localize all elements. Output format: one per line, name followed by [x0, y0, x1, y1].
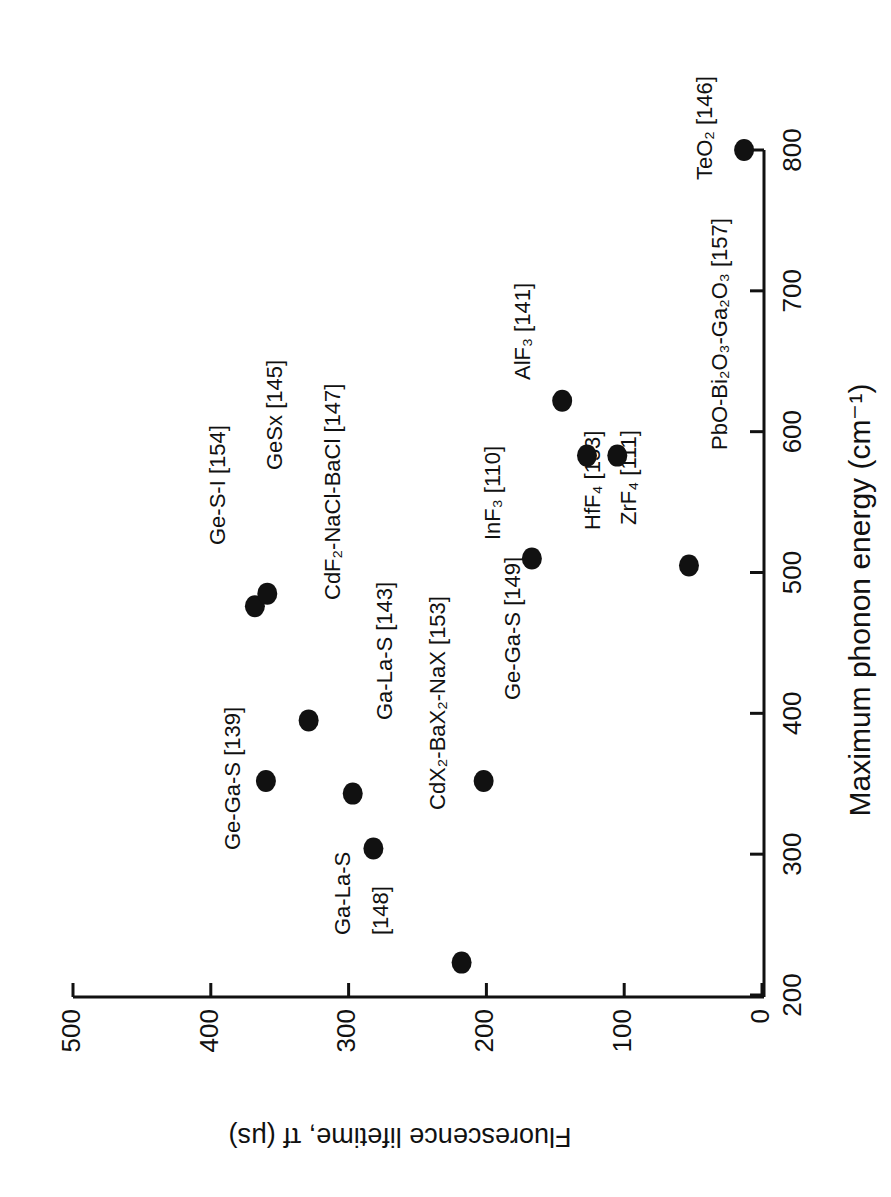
- point-label: ZrF₄ [111]: [616, 430, 641, 525]
- point-label: Ge-S-I [154]: [205, 425, 230, 545]
- y-tick-label: 500: [56, 1009, 86, 1052]
- y-tick-label: 400: [194, 1009, 224, 1052]
- point-label: Ge-Ga-S [149]: [500, 557, 525, 700]
- data-point: [552, 390, 572, 412]
- data-point: [257, 583, 277, 605]
- x-tick-label: 200: [777, 973, 807, 1016]
- x-tick-label: 700: [777, 269, 807, 312]
- point-label: Ge-Ga-S [139]: [220, 707, 245, 850]
- data-point: [734, 139, 754, 161]
- point-label: CdX₂-BaX₂-NaX [153]: [425, 596, 450, 810]
- point-label: Ga-La-S [143]: [372, 582, 397, 720]
- data-point: [256, 770, 276, 792]
- point-label: Ga-La-S: [330, 852, 355, 935]
- data-point: [679, 554, 699, 576]
- data-point: [299, 709, 319, 731]
- y-tick-label: 300: [331, 1009, 361, 1052]
- point-label: HfF₄ [153]: [580, 431, 605, 530]
- point-labels: TeO₂ [146]PbO-Bi₂O₃-Ga₂O₃ [157]ZrF₄ [111…: [205, 76, 732, 935]
- point-label: TeO₂ [146]: [692, 76, 717, 180]
- point-label: PbO-Bi₂O₃-Ga₂O₃ [157]: [707, 218, 732, 450]
- y-tick-label: 100: [607, 1009, 637, 1052]
- scatter-plot: 0100200300400500200300400500600700800 Te…: [0, 0, 891, 1197]
- x-tick-label: 300: [777, 832, 807, 875]
- axes: 0100200300400500200300400500600700800: [56, 128, 807, 1052]
- data-point: [452, 952, 472, 974]
- data-point: [343, 783, 363, 805]
- x-tick-label: 500: [777, 551, 807, 594]
- point-label: InF₃ [110]: [480, 446, 505, 540]
- point-label: [148]: [368, 886, 393, 935]
- chart-figure: 0100200300400500200300400500600700800 Te…: [0, 0, 891, 1197]
- x-axis-title: Maximum phonon energy (cm⁻¹): [843, 384, 876, 817]
- x-tick-label: 400: [777, 692, 807, 735]
- point-label: GeSx [145]: [262, 360, 287, 470]
- point-label: AlF₃ [141]: [510, 283, 535, 380]
- x-tick-label: 800: [777, 128, 807, 171]
- y-tick-label: 200: [469, 1009, 499, 1052]
- x-tick-label: 600: [777, 410, 807, 453]
- data-point: [363, 838, 383, 860]
- point-label: CdF₂-NaCl-BaCl [147]: [320, 384, 345, 600]
- data-point: [474, 770, 494, 792]
- y-axis-title: Fluorescence lifetime, τf (μs): [229, 1122, 572, 1152]
- y-tick-label: 0: [745, 1009, 775, 1023]
